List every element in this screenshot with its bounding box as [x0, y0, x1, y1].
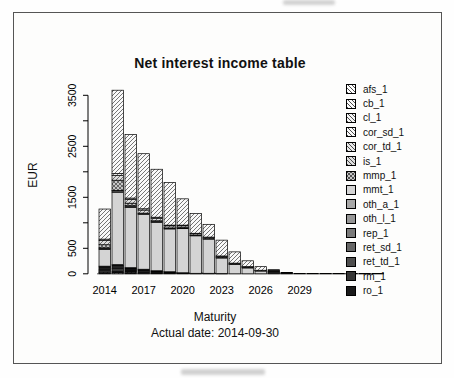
- bar-segment: [190, 214, 202, 234]
- bar-segment: [203, 239, 215, 273]
- x-tick-label: 2017: [132, 284, 156, 296]
- chart-title: Net interest income table: [55, 55, 385, 71]
- legend-swatch: [346, 171, 356, 181]
- bar-segment: [229, 265, 241, 274]
- legend-item-cb_1: cb_1: [346, 96, 404, 110]
- x-tick-label: 2014: [93, 284, 117, 296]
- bar-segment: [99, 209, 111, 239]
- y-axis-title: EUR: [26, 130, 40, 220]
- legend-label: cb_1: [363, 98, 385, 109]
- bar-segment: [242, 261, 254, 267]
- legend-swatch: [346, 271, 356, 281]
- legend-label: ret_sd_1: [363, 242, 402, 253]
- x-axis-title: Maturity: [35, 310, 395, 324]
- bar-segment: [125, 200, 137, 204]
- legend-swatch: [346, 127, 356, 137]
- legend-label: rm_1: [363, 271, 386, 282]
- legend-label: is_1: [363, 156, 381, 167]
- legend-swatch: [346, 228, 356, 238]
- bar-segment: [112, 90, 124, 173]
- legend-item-ret_sd_1: ret_sd_1: [346, 240, 404, 254]
- bar-segment: [190, 236, 202, 273]
- x-tick-label: 2026: [249, 284, 273, 296]
- legend-swatch: [346, 156, 356, 166]
- bar-segment: [164, 229, 176, 272]
- bar-segment: [125, 208, 137, 268]
- bar-segment: [164, 183, 176, 226]
- legend-label: oth_a_1: [363, 199, 399, 210]
- legend-item-mmt_1: mmt_1: [346, 183, 404, 197]
- y-tick-label: 2500: [66, 134, 78, 158]
- legend-label: rep_1: [363, 228, 389, 239]
- legend-item-oth_l_1: oth_l_1: [346, 212, 404, 226]
- x-tick-label: 2023: [210, 284, 234, 296]
- legend-item-ro_1: ro_1: [346, 283, 404, 297]
- bar-segment: [255, 271, 267, 274]
- x-tick-label: 2029: [288, 284, 312, 296]
- bar-segment: [151, 218, 163, 221]
- legend-swatch: [346, 185, 356, 195]
- bar-segment: [99, 249, 111, 266]
- bar-segment: [151, 169, 163, 217]
- legend-item-ret_td_1: ret_td_1: [346, 255, 404, 269]
- y-tick-label: 0: [66, 271, 78, 277]
- legend-item-mmp_1: mmp_1: [346, 168, 404, 182]
- bar-segment: [268, 270, 280, 272]
- legend-label: ret_td_1: [363, 256, 400, 267]
- legend-swatch: [346, 84, 356, 94]
- x-tick-label: 2020: [171, 284, 195, 296]
- legend-label: cl_1: [363, 112, 381, 123]
- y-tick-label: 3500: [66, 83, 78, 107]
- legend-item-cl_1: cl_1: [346, 111, 404, 125]
- bar-segment: [177, 229, 189, 273]
- legend-item-rep_1: rep_1: [346, 226, 404, 240]
- legend-label: afs_1: [363, 84, 387, 95]
- bar-segment: [99, 241, 111, 245]
- legend-label: cor_td_1: [363, 141, 402, 152]
- legend-label: mmt_1: [363, 184, 394, 195]
- bar-segment: [125, 203, 137, 206]
- legend-swatch: [346, 242, 356, 252]
- bar-segment: [138, 210, 150, 213]
- legend-label: oth_l_1: [363, 213, 396, 224]
- legend-swatch: [346, 142, 356, 152]
- bar-segment: [203, 224, 215, 237]
- bar-segment: [112, 192, 124, 264]
- bar-segment: [138, 215, 150, 270]
- legend-item-cor_sd_1: cor_sd_1: [346, 125, 404, 139]
- legend-item-cor_td_1: cor_td_1: [346, 140, 404, 154]
- bar-segment: [216, 258, 228, 274]
- chart-page: 0500150025003500201420172020202320262029…: [0, 0, 454, 378]
- legend-item-afs_1: afs_1: [346, 82, 404, 96]
- bar-segment: [242, 268, 254, 274]
- bar-segment: [112, 176, 124, 181]
- legend-swatch: [346, 257, 356, 267]
- legend-swatch: [346, 199, 356, 209]
- bar-segment: [216, 240, 228, 256]
- legend-swatch: [346, 113, 356, 123]
- legend-item-is_1: is_1: [346, 154, 404, 168]
- legend-swatch: [346, 286, 356, 296]
- legend-item-rm_1: rm_1: [346, 269, 404, 283]
- legend-swatch: [346, 214, 356, 224]
- legend-swatch: [346, 99, 356, 109]
- bar-segment: [255, 267, 267, 271]
- y-tick-label: 500: [66, 239, 78, 257]
- legend-label: cor_sd_1: [363, 127, 404, 138]
- bar-segment: [151, 222, 163, 270]
- bar-segment: [138, 154, 150, 209]
- y-tick-label: 1500: [66, 185, 78, 209]
- bar-segment: [112, 180, 124, 190]
- bar-segment: [125, 135, 137, 198]
- bar-segment: [177, 199, 189, 225]
- bar-segment: [99, 245, 111, 248]
- legend: afs_1cb_1cl_1cor_sd_1cor_td_1is_1mmp_1mm…: [346, 82, 404, 298]
- legend-label: ro_1: [363, 285, 383, 296]
- legend-label: mmp_1: [363, 170, 396, 181]
- legend-item-oth_a_1: oth_a_1: [346, 197, 404, 211]
- actual-date-caption: Actual date: 2014-09-30: [35, 326, 395, 340]
- bar-segment: [229, 252, 241, 263]
